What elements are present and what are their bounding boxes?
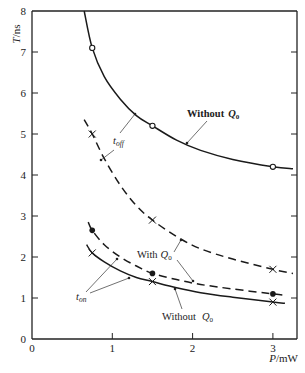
y-tick-label: 5 (21, 128, 27, 140)
x-tick-label: 2 (190, 342, 196, 354)
open-circle-marker (270, 164, 275, 169)
annotation-t-off: toff (113, 135, 125, 148)
leader-with-q0-lower (177, 260, 193, 281)
filled-circle-marker (89, 228, 95, 234)
leader-with-q0-upper (174, 240, 181, 252)
annotation-t-on: ton (76, 291, 87, 304)
x-axis-ticks: 0123 (29, 333, 276, 354)
leader-t-on-lower (90, 278, 129, 293)
x-marker (149, 217, 156, 224)
y-tick-label: 4 (21, 169, 27, 181)
data-markers (89, 45, 277, 305)
filled-circle-marker (270, 291, 276, 297)
x-tick-label: 1 (110, 342, 116, 354)
open-circle-marker (150, 123, 155, 128)
y-tick-label: 0 (21, 333, 27, 345)
data-series (84, 11, 293, 303)
leader-t-on-upper (86, 259, 117, 292)
chart: 012345678 0123 T/ns P/mW WithoutQ0 toff … (0, 0, 305, 373)
leader-t-off-upper (120, 114, 135, 133)
y-axis-ticks: 012345678 (21, 5, 298, 345)
y-tick-label: 6 (21, 87, 27, 99)
annotation-without-q0-bottom: WithoutQ0 (162, 311, 214, 324)
y-tick-label: 8 (21, 5, 27, 17)
y-tick-label: 1 (21, 292, 27, 304)
annotation-without-q0-top: WithoutQ0 (187, 108, 240, 121)
open-circle-marker (90, 45, 95, 50)
y-tick-label: 7 (21, 46, 27, 58)
x-axis-title: P/mW (268, 352, 298, 364)
y-axis-title: T/ns (10, 25, 22, 44)
filled-circle-marker (150, 271, 156, 277)
y-tick-label: 3 (21, 210, 27, 222)
leader-without-q0-bottom (175, 289, 182, 309)
y-tick-label: 2 (21, 251, 27, 263)
plot-frame (32, 11, 297, 339)
x-marker (89, 249, 96, 256)
leader-without-q0-top (187, 121, 207, 143)
x-tick-label: 0 (29, 342, 35, 354)
annotation-with-q0: WithQ0 (137, 249, 172, 262)
x-marker (89, 131, 96, 138)
